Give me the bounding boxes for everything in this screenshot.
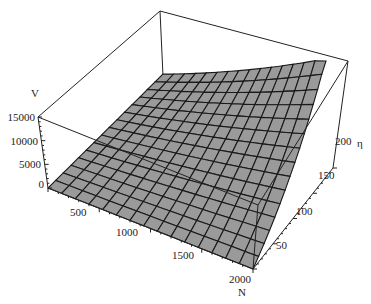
z-tick-0: 0 (39, 178, 45, 190)
y-tick-50: 50 (276, 239, 288, 251)
z-tick-5000: 5000 (19, 158, 42, 170)
y-tick-200: 200 (335, 135, 352, 147)
y-tick-100: 100 (296, 205, 313, 217)
x-axis-label: N (238, 286, 246, 298)
z-axis-label: V (31, 87, 39, 99)
z-tick-10000: 10000 (11, 135, 39, 147)
z-tick-15000: 15000 (8, 111, 36, 123)
y-axis-label: η (357, 137, 363, 149)
surface-plot: V 15000 10000 5000 0 500 1000 1500 2000 … (0, 0, 371, 304)
x-tick-1000: 1000 (116, 226, 139, 238)
x-tick-1500: 1500 (172, 249, 195, 261)
x-tick-2000: 2000 (229, 273, 252, 285)
x-tick-500: 500 (70, 206, 87, 218)
y-tick-150: 150 (318, 169, 335, 181)
surface-mesh (48, 61, 326, 269)
